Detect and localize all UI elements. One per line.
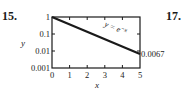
x-tick-label: 0 <box>50 70 54 80</box>
curve-label: y = e−x <box>102 18 129 37</box>
y-tick-label: 0.001 <box>31 63 50 73</box>
x-tick-label: 1 <box>67 70 71 80</box>
data-line <box>52 17 140 54</box>
x-tick-label: 2 <box>85 70 89 80</box>
y-tick-label: 0.01 <box>35 46 50 56</box>
x-tick-label: 4 <box>120 70 125 80</box>
endpoint-value-label: 0.0067 <box>141 49 164 59</box>
plot-frame <box>52 17 140 68</box>
y-tick-label: 1 <box>46 12 50 22</box>
chart: 1 0.1 0.01 0.001 0 1 2 3 4 5 y x y = e−x… <box>0 0 192 105</box>
y-tick-label: 0.1 <box>39 29 50 39</box>
x-axis-label: x <box>94 80 99 90</box>
x-tick-label: 5 <box>138 70 142 80</box>
y-axis-label: y <box>20 38 25 48</box>
x-tick-label: 3 <box>103 70 107 80</box>
